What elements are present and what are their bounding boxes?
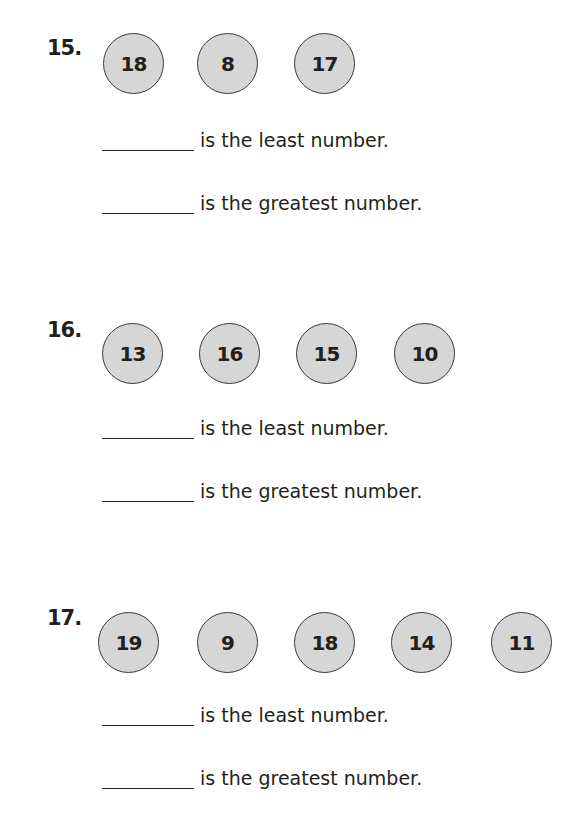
greatest-answer-row: is the greatest number. <box>102 766 422 789</box>
least-statement: is the least number. <box>200 129 389 151</box>
number-circle: 19 <box>98 612 159 673</box>
least-answer-row: is the least number. <box>102 703 389 726</box>
problem-number: 17. <box>47 606 81 630</box>
number-circle: 10 <box>394 323 455 384</box>
greatest-answer-row: is the greatest number. <box>102 479 422 502</box>
least-answer-blank[interactable] <box>102 703 194 726</box>
greatest-statement: is the greatest number. <box>200 767 422 789</box>
greatest-answer-blank[interactable] <box>102 191 194 214</box>
number-circle: 18 <box>103 33 164 94</box>
greatest-statement: is the greatest number. <box>200 480 422 502</box>
least-answer-blank[interactable] <box>102 416 194 439</box>
greatest-answer-blank[interactable] <box>102 766 194 789</box>
least-answer-row: is the least number. <box>102 416 389 439</box>
number-circle: 18 <box>294 612 355 673</box>
number-circle: 11 <box>491 612 552 673</box>
number-circle: 14 <box>391 612 452 673</box>
least-answer-blank[interactable] <box>102 128 194 151</box>
least-statement: is the least number. <box>200 417 389 439</box>
number-circle: 13 <box>102 323 163 384</box>
number-circle: 16 <box>199 323 260 384</box>
least-statement: is the least number. <box>200 704 389 726</box>
greatest-answer-blank[interactable] <box>102 479 194 502</box>
problem-number: 16. <box>47 318 81 342</box>
number-circle: 17 <box>294 33 355 94</box>
number-circle: 8 <box>197 33 258 94</box>
greatest-answer-row: is the greatest number. <box>102 191 422 214</box>
number-circle: 15 <box>296 323 357 384</box>
number-circle: 9 <box>197 612 258 673</box>
greatest-statement: is the greatest number. <box>200 192 422 214</box>
least-answer-row: is the least number. <box>102 128 389 151</box>
problem-number: 15. <box>47 36 81 60</box>
